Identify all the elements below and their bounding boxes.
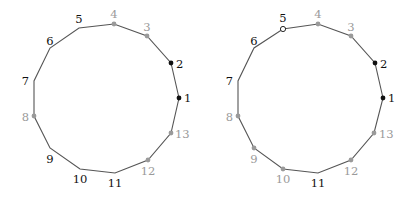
vertex-4-dot-icon bbox=[112, 22, 117, 27]
vertex-1-label: 1 bbox=[388, 91, 395, 105]
vertex-1-label: 1 bbox=[184, 91, 191, 105]
vertex-9-dot-icon bbox=[252, 146, 257, 151]
vertex-2-label: 2 bbox=[176, 57, 183, 71]
vertex-2-dot-icon bbox=[169, 61, 174, 66]
vertex-5-dot-icon bbox=[280, 26, 285, 31]
vertex-2-label: 2 bbox=[380, 57, 387, 71]
vertex-12-label: 12 bbox=[141, 164, 156, 178]
vertex-11-label: 11 bbox=[311, 176, 326, 190]
vertex-9-label: 9 bbox=[46, 152, 53, 166]
vertex-10-label: 10 bbox=[276, 172, 291, 186]
vertex-5-label: 5 bbox=[279, 11, 286, 25]
vertex-2-dot-icon bbox=[373, 61, 378, 66]
vertex-12-dot-icon bbox=[146, 158, 151, 163]
vertex-3-dot-icon bbox=[349, 34, 354, 39]
vertex-4-label: 4 bbox=[314, 7, 321, 21]
vertex-6-label: 6 bbox=[46, 34, 53, 48]
vertex-12-label: 12 bbox=[344, 164, 359, 178]
vertex-13-label: 13 bbox=[175, 127, 190, 141]
vertex-3-dot-icon bbox=[145, 34, 150, 39]
vertex-7-label: 7 bbox=[226, 74, 233, 88]
vertex-1-dot-icon bbox=[177, 96, 182, 101]
vertex-10-label: 10 bbox=[73, 172, 88, 186]
vertex-8-dot-icon bbox=[236, 114, 241, 119]
vertex-4-dot-icon bbox=[316, 22, 321, 27]
vertex-8-label: 8 bbox=[22, 110, 29, 124]
left-polygon: 12345678910111213 bbox=[22, 7, 192, 190]
polygon-diagrams: 12345678910111213 12345678910111213 bbox=[0, 0, 411, 201]
vertex-5-label: 5 bbox=[75, 12, 82, 26]
vertex-6-label: 6 bbox=[250, 34, 257, 48]
vertex-13-dot-icon bbox=[372, 131, 377, 136]
vertex-8-dot-icon bbox=[32, 114, 37, 119]
polygon-edges bbox=[238, 24, 383, 173]
vertex-9-label: 9 bbox=[250, 152, 257, 166]
vertex-8-label: 8 bbox=[226, 110, 233, 124]
vertex-12-dot-icon bbox=[349, 158, 354, 163]
vertex-3-label: 3 bbox=[143, 20, 150, 34]
diagram-canvas: 12345678910111213 12345678910111213 bbox=[0, 0, 411, 201]
polygon-edges bbox=[34, 24, 179, 173]
vertex-13-label: 13 bbox=[379, 127, 394, 141]
vertex-10-dot-icon bbox=[281, 167, 286, 172]
vertex-11-label: 11 bbox=[108, 176, 123, 190]
vertex-3-label: 3 bbox=[347, 20, 354, 34]
vertex-1-dot-icon bbox=[381, 96, 386, 101]
right-polygon: 12345678910111213 bbox=[226, 7, 396, 190]
vertex-4-label: 4 bbox=[110, 7, 117, 21]
vertex-13-dot-icon bbox=[169, 131, 174, 136]
vertex-7-label: 7 bbox=[22, 74, 29, 88]
